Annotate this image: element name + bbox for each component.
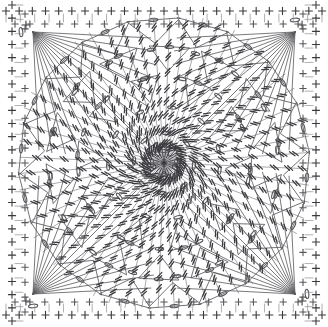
crochet-chart-svg — [0, 0, 328, 327]
crochet-chart-canvas: Crochet Granny Square Stitch Chart — [0, 0, 328, 327]
